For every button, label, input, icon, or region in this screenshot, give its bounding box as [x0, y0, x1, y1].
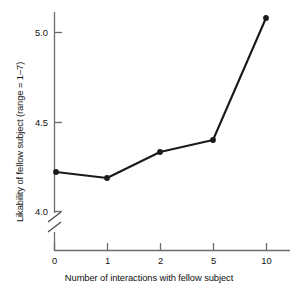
plot-background: [0, 0, 298, 292]
line-chart-plot: 5.0 4.5 4.0 0 1 2 5 10: [0, 0, 298, 292]
chart-figure: 5.0 4.5 4.0 0 1 2 5 10 Likability of fel…: [0, 0, 298, 292]
x-axis-title: Number of interactions with fellow subje…: [0, 272, 298, 283]
x-tick-label-0: 0: [52, 255, 57, 266]
data-point-1: [104, 175, 110, 181]
y-tick-label-4-5: 4.5: [35, 117, 48, 128]
data-point-5: [210, 137, 216, 143]
data-point-2: [157, 149, 163, 155]
y-axis-title: Likability of fellow subject (range = 1–…: [14, 62, 25, 222]
data-point-10: [263, 15, 269, 21]
data-point-0: [53, 169, 59, 175]
x-tick-label-10: 10: [261, 255, 271, 266]
y-tick-label-5-0: 5.0: [35, 27, 48, 38]
y-tick-label-4-0: 4.0: [35, 206, 48, 217]
x-tick-label-1: 1: [105, 255, 110, 266]
x-tick-label-5: 5: [211, 255, 216, 266]
x-tick-label-2: 2: [158, 255, 163, 266]
